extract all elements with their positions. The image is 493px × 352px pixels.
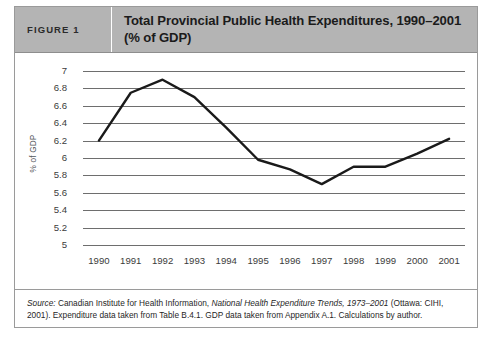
y-axis-tick-label: 7: [33, 66, 67, 76]
figure-header: FIGURE 1 Total Provincial Public Health …: [15, 7, 477, 53]
source-divider: [15, 289, 477, 290]
chart-plot-area: % of GDP 76.86.66.46.265.85.65.45.25 199…: [15, 53, 477, 289]
x-axis-tick-label: 1999: [375, 255, 396, 266]
source-note: Source: Canadian Institute for Health In…: [27, 297, 465, 321]
x-axis-tick-label: 1992: [152, 255, 173, 266]
figure-number-label: FIGURE 1: [27, 24, 80, 35]
figure-title-cell: Total Provincial Public Health Expenditu…: [112, 7, 477, 52]
page-title: Total Provincial Public Health Expenditu…: [124, 13, 467, 46]
y-axis-tick-label: 6.6: [33, 101, 67, 111]
x-axis-tick-label: 1993: [184, 255, 205, 266]
y-axis-tick-label: 6: [33, 153, 67, 163]
y-axis-tick-label: 6.8: [33, 84, 67, 94]
x-axis-tick-label: 1990: [88, 255, 109, 266]
x-axis-tick-label: 1998: [343, 255, 364, 266]
figure-number-cell: FIGURE 1: [15, 7, 112, 52]
x-axis-tick-label: 1994: [216, 255, 237, 266]
source-italic-title: National Health Expenditure Trends, 1973…: [211, 298, 388, 308]
figure-container: FIGURE 1 Total Provincial Public Health …: [14, 6, 478, 328]
y-axis-tick-label: 5.4: [33, 205, 67, 215]
y-axis-tick-label: 5: [33, 240, 67, 250]
x-axis-tick-label: 2001: [438, 255, 459, 266]
source-label: Source:: [27, 298, 56, 308]
y-axis-tick-label: 5.6: [33, 188, 67, 198]
x-axis-tick-label: 1995: [247, 255, 268, 266]
x-axis-tick-label: 2000: [407, 255, 428, 266]
x-axis-tick-label: 1997: [311, 255, 332, 266]
x-axis-tick-label: 1996: [279, 255, 300, 266]
y-axis-tick-label: 6.2: [33, 136, 67, 146]
x-axis-tick-labels: 1990199119921993199419951996199719981999…: [83, 53, 465, 289]
source-text-before: Canadian Institute for Health Informatio…: [56, 298, 212, 308]
y-axis-tick-label: 5.8: [33, 171, 67, 181]
y-axis-tick-label: 6.4: [33, 118, 67, 128]
y-axis-tick-labels: 76.86.66.46.265.85.65.45.25: [33, 53, 67, 289]
x-axis-tick-label: 1991: [120, 255, 141, 266]
y-axis-tick-label: 5.2: [33, 223, 67, 233]
